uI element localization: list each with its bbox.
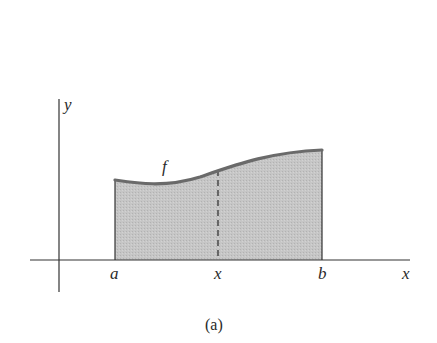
function-label-f: f bbox=[162, 157, 169, 176]
point-label-a: a bbox=[110, 264, 119, 283]
x-axis-label: x bbox=[401, 264, 410, 283]
figure-caption: (a) bbox=[205, 316, 223, 334]
point-label-b: b bbox=[318, 264, 327, 283]
y-axis-label: y bbox=[62, 95, 72, 114]
area-under-curve-diagram: y f a x b x (a) bbox=[0, 0, 437, 343]
point-label-x: x bbox=[213, 264, 222, 283]
